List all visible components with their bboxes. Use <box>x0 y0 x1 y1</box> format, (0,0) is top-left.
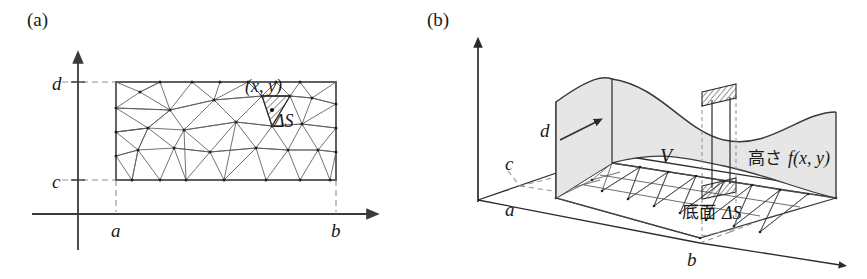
figure-svg: (a) d c a b <box>0 0 867 279</box>
panel-a-point-label: (x, y) <box>245 76 282 97</box>
panel-a-label-a: a <box>111 220 121 241</box>
panel-b-prism-top-face <box>702 84 736 106</box>
panel-a-label-b: b <box>331 220 341 241</box>
panel-b-label-c: c <box>505 153 514 174</box>
panel-b: (b) <box>427 9 840 270</box>
panel-b-label-d: d <box>540 120 550 141</box>
panel-a-label: (a) <box>27 9 48 31</box>
panel-b-height-function-label: f(x, y) <box>788 148 830 169</box>
panel-b-base-element-label: ΔS <box>721 203 742 223</box>
panel-b-height-label: 高さ <box>748 148 782 168</box>
panel-b-label-b: b <box>687 249 697 270</box>
panel-b-label: (b) <box>427 9 449 31</box>
panel-a-element-label: ΔS <box>273 111 294 131</box>
panel-a-label-d: d <box>52 73 62 94</box>
panel-b-label-a: a <box>505 199 515 220</box>
figure-container: (a) d c a b <box>0 0 867 279</box>
panel-a-label-c: c <box>52 171 61 192</box>
panel-a: (a) d c a b <box>27 9 368 250</box>
panel-b-base-label: 底面 <box>682 202 716 222</box>
